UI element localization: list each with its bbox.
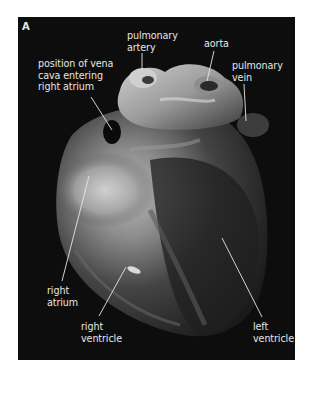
heart-body (55, 106, 267, 336)
label-left-ventricle: left ventricle (253, 321, 294, 344)
label-vena-cava: position of vena cava entering right atr… (38, 58, 113, 93)
label-right-ventricle: right ventricle (81, 321, 122, 344)
label-aorta: aorta (204, 38, 229, 50)
label-right-atrium: right atrium (47, 285, 78, 308)
label-pulmonary-vein: pulmonary vein (232, 60, 283, 83)
panel-letter: A (22, 22, 30, 32)
label-pulmonary-artery: pulmonary artery (127, 30, 178, 53)
